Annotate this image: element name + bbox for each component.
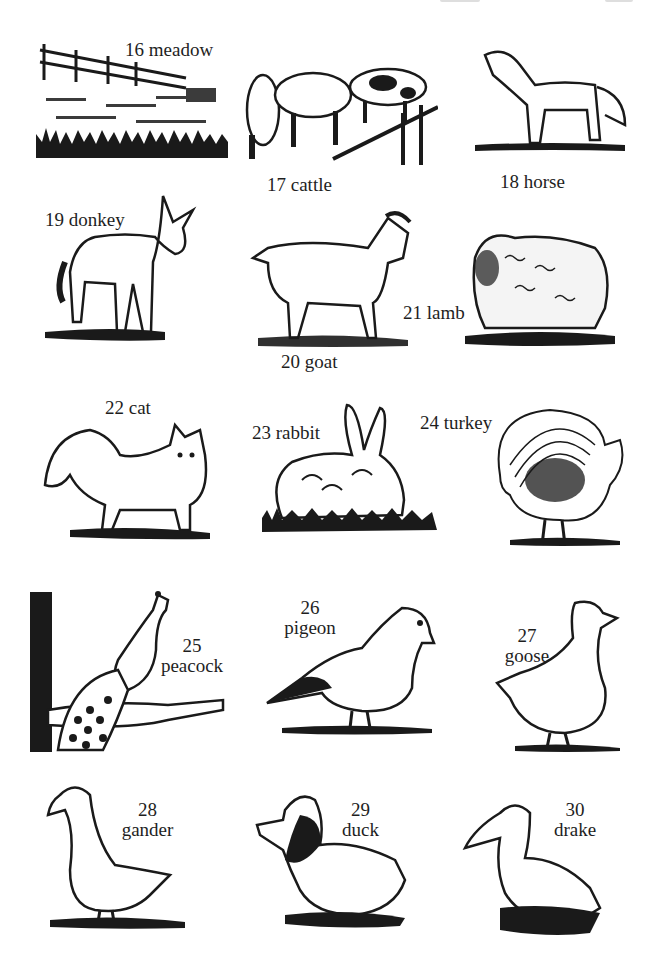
goose-word: goose: [497, 646, 557, 666]
gander-number: 28: [110, 800, 185, 820]
goose-number: 27: [497, 626, 557, 646]
goose-label: 27 goose: [497, 626, 557, 666]
lamb-label: 21 lamb: [403, 303, 465, 323]
pigeon-number: 26: [270, 598, 350, 618]
horse-illustration: [475, 45, 635, 155]
goose-illustration: [495, 598, 630, 753]
duck-number: 29: [333, 800, 388, 820]
horse-label: 18 horse: [500, 172, 565, 192]
donkey-label: 19 donkey: [45, 210, 125, 230]
cattle-label: 17 cattle: [267, 175, 332, 195]
goat-illustration: [248, 208, 418, 348]
duck-word: duck: [333, 820, 388, 840]
meadow-label: 16 meadow: [125, 40, 213, 60]
peacock-label: 25 peacock: [152, 636, 232, 676]
gander-label: 28 gander: [110, 800, 185, 840]
gander-word: gander: [110, 820, 185, 840]
goat-label: 20 goat: [281, 352, 337, 372]
cattle-illustration: [243, 55, 438, 165]
pigeon-word: pigeon: [270, 618, 350, 638]
cut-off-page-number: [605, 0, 633, 2]
drake-number: 30: [540, 800, 610, 820]
duck-label: 29 duck: [333, 800, 388, 840]
cat-label: 22 cat: [105, 398, 151, 418]
cut-off-header-text: [440, 0, 480, 2]
rabbit-illustration: [252, 400, 442, 540]
pigeon-label: 26 pigeon: [270, 598, 350, 638]
rabbit-label: 23 rabbit: [252, 423, 320, 443]
peacock-word: peacock: [152, 656, 232, 676]
turkey-illustration: [490, 405, 630, 550]
drake-label: 30 drake: [540, 800, 610, 840]
peacock-number: 25: [152, 636, 232, 656]
cat-illustration: [40, 415, 220, 540]
turkey-label: 24 turkey: [420, 413, 492, 433]
lamb-illustration: [465, 228, 615, 348]
drake-word: drake: [540, 820, 610, 840]
